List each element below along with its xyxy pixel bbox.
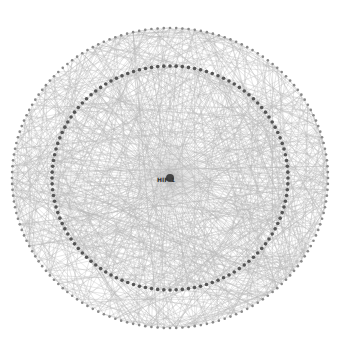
figure-caption: [60, 338, 290, 344]
center-node-label: HIF-1: [157, 176, 175, 183]
network-diagram: [0, 0, 343, 349]
